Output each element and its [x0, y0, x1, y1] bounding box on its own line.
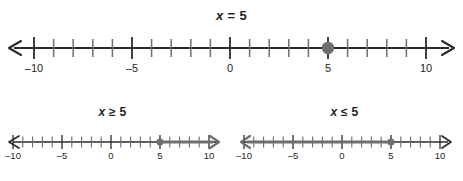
le-title-value: 5 [352, 105, 359, 119]
main-tick-label--10: –10 [14, 62, 54, 74]
number-line-figure: x = 5 [0, 0, 463, 181]
ge-endpoint-closed-circle [156, 138, 163, 145]
le-tick-label-5: 5 [371, 150, 411, 161]
main-title-variable: x [216, 8, 224, 23]
ge-title-value: 5 [120, 105, 127, 119]
main-tick-label-0: 0 [210, 62, 250, 74]
ge-title-variable: x [98, 105, 105, 119]
le-tick-label--5: –5 [273, 150, 313, 161]
le-title-relation: ≤ [341, 105, 348, 119]
le-tick-label--10: –10 [224, 150, 264, 161]
ge-tick-label-5: 5 [140, 150, 180, 161]
le-endpoint-closed-circle [387, 138, 394, 145]
le-title-variable: x [330, 105, 337, 119]
main-tick-label-5: 5 [308, 62, 348, 74]
main-plot-title: x = 5 [0, 8, 463, 23]
ge-plot-title: x ≥ 5 [0, 105, 225, 119]
ge-tick-label-0: 0 [91, 150, 131, 161]
main-tick-label--5: –5 [112, 62, 152, 74]
le-plot-title: x ≤ 5 [232, 105, 457, 119]
ge-tick-label-10: 10 [189, 150, 229, 161]
le-tick-label-0: 0 [322, 150, 362, 161]
main-solution-point [322, 42, 334, 54]
main-title-value: 5 [239, 8, 247, 23]
ge-title-relation: ≥ [109, 105, 116, 119]
ge-tick-label--10: –10 [0, 150, 33, 161]
le-tick-label-10: 10 [420, 150, 460, 161]
main-tick-label-10: 10 [406, 62, 446, 74]
main-title-relation: = [228, 8, 236, 23]
ge-tick-label--5: –5 [42, 150, 82, 161]
